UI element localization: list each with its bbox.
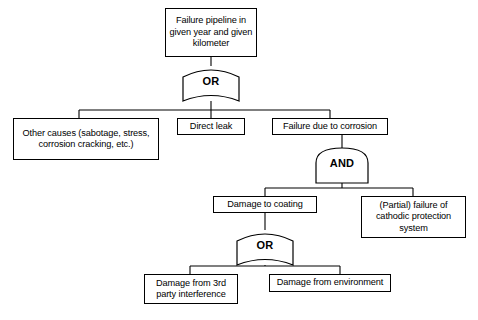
event-label-damage-third-party: Damage from 3rd party interference bbox=[148, 278, 234, 301]
event-label-failure-corrosion: Failure due to corrosion bbox=[283, 121, 377, 132]
event-box-failure-corrosion[interactable]: Failure due to corrosion bbox=[272, 118, 388, 135]
event-box-direct-leak[interactable]: Direct leak bbox=[177, 118, 245, 135]
event-label-cathodic-failure: (Partial) failure of cathodic protection… bbox=[365, 200, 462, 234]
and-gate-corrosion[interactable] bbox=[316, 148, 368, 183]
event-box-other-causes[interactable]: Other causes (sabotage, stress, corrosio… bbox=[13, 118, 159, 160]
event-box-damage-environment[interactable]: Damage from environment bbox=[269, 274, 391, 292]
or-gate-top[interactable] bbox=[183, 66, 239, 101]
event-box-damage-coating[interactable]: Damage to coating bbox=[213, 196, 317, 213]
event-label-top-event: Failure pipeline in given year and given… bbox=[169, 15, 253, 49]
event-label-damage-environment: Damage from environment bbox=[277, 277, 383, 288]
event-box-top-event[interactable]: Failure pipeline in given year and given… bbox=[165, 8, 257, 57]
event-label-direct-leak: Direct leak bbox=[190, 121, 232, 132]
event-label-damage-coating: Damage to coating bbox=[227, 199, 302, 210]
event-box-cathodic-failure[interactable]: (Partial) failure of cathodic protection… bbox=[361, 196, 466, 238]
event-box-damage-third-party[interactable]: Damage from 3rd party interference bbox=[144, 274, 238, 304]
fault-tree-diagram: Failure pipeline in given year and given… bbox=[0, 0, 478, 320]
event-label-other-causes: Other causes (sabotage, stress, corrosio… bbox=[17, 128, 155, 151]
or-gate-coating[interactable] bbox=[237, 230, 293, 265]
